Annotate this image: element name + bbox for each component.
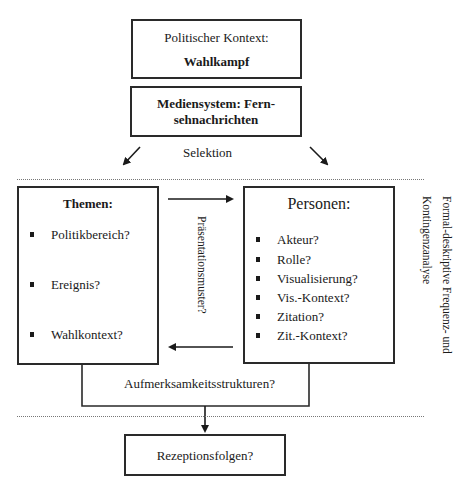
persons-item: Visualisierung?: [277, 271, 358, 286]
bullet-icon: [256, 295, 260, 300]
political-context-box: Politischer Kontext: Wahlkampf: [131, 19, 302, 79]
themes-box: Themen: Politikbereich? Ereignis? Wahlko…: [17, 186, 159, 365]
selection-arrow-right: [310, 147, 327, 164]
bullet-icon: [256, 333, 260, 338]
persons-title: Personen:: [245, 194, 393, 213]
media-system-box: Mediensystem: Fern- sehnachrichten: [130, 86, 302, 137]
themes-title: Themen:: [19, 196, 157, 211]
separator-top: [17, 179, 424, 180]
selection-arrow-left: [124, 147, 140, 164]
themes-item: Politikbereich?: [51, 227, 130, 242]
media-system-line1: Mediensystem: Fern-: [132, 96, 300, 111]
persons-item: Akteur?: [277, 232, 319, 247]
analysis-label-line1: Formal-deskriptive Frequenz- und: [440, 196, 453, 354]
presentation-pattern-label: Präsentationsmuster?: [195, 216, 208, 314]
persons-item: Rolle?: [277, 252, 311, 267]
persons-box: Personen: Akteur? Rolle? Visualisierung?…: [243, 186, 395, 364]
political-context-value: Wahlkampf: [133, 54, 300, 69]
selection-label: Selektion: [183, 145, 232, 160]
bullet-icon: [30, 332, 34, 337]
attention-structures-label: Aufmerksamkeitsstrukturen?: [124, 376, 275, 391]
reception-label: Rezeptionsfolgen?: [126, 448, 284, 463]
bullet-icon: [256, 257, 260, 262]
bullet-icon: [256, 237, 260, 242]
bullet-icon: [256, 314, 260, 319]
analysis-label-line2: Kontingenzanalyse: [420, 196, 433, 284]
separator-bottom: [17, 416, 424, 417]
media-system-line2: sehnachrichten: [132, 112, 300, 127]
themes-item: Wahlkontext?: [51, 327, 123, 342]
persons-item: Zitation?: [277, 309, 324, 324]
bullet-icon: [30, 232, 34, 237]
persons-item: Zit.-Kontext?: [277, 328, 347, 343]
persons-item: Vis.-Kontext?: [277, 290, 350, 305]
reception-box: Rezeptionsfolgen?: [124, 434, 286, 476]
bullet-icon: [256, 276, 260, 281]
political-context-label: Politischer Kontext:: [133, 30, 300, 45]
themes-item: Ereignis?: [51, 277, 100, 292]
bullet-icon: [30, 282, 34, 287]
